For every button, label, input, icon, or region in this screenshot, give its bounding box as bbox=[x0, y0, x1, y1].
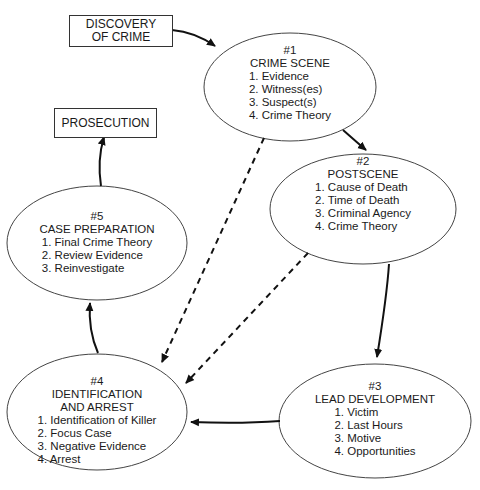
node-5-title: CASE PREPARATION bbox=[39, 223, 154, 236]
arrow-3-to-4 bbox=[191, 421, 280, 423]
node-3-item: 1. Victim bbox=[334, 406, 415, 419]
discovery-line2: OF CRIME bbox=[92, 31, 151, 44]
node-1-crime-scene: #1 CRIME SCENE 1. Evidence 2. Witness(es… bbox=[220, 44, 360, 122]
node-1-item: 2. Witness(es) bbox=[249, 83, 331, 96]
node-4-number: #4 bbox=[91, 375, 104, 388]
node-2-items: 1. Cause of Death 2. Time of Death 3. Cr… bbox=[315, 181, 411, 233]
arrow-5-to-prosecution bbox=[100, 137, 104, 186]
node-5-item: 1. Final Crime Theory bbox=[42, 236, 152, 249]
node-3-item: 4. Opportunities bbox=[334, 445, 415, 458]
node-4-item: 4. Arrest bbox=[38, 453, 157, 466]
node-5-case-preparation: #5 CASE PREPARATION 1. Final Crime Theor… bbox=[27, 210, 167, 275]
node-2-item: 4. Crime Theory bbox=[315, 220, 411, 233]
node-1-item: 1. Evidence bbox=[249, 70, 331, 83]
node-4-item: 1. Identification of Killer bbox=[38, 414, 157, 427]
node-2-title: POSTSCENE bbox=[328, 168, 399, 181]
node-4-title-line1: IDENTIFICATION bbox=[52, 388, 143, 401]
node-3-item: 3. Motive bbox=[334, 432, 415, 445]
node-2-number: #2 bbox=[357, 155, 370, 168]
arrow-2-to-3 bbox=[377, 264, 389, 357]
node-1-number: #1 bbox=[284, 44, 297, 57]
node-1-item: 3. Suspect(s) bbox=[249, 96, 331, 109]
node-4-identification-and-arrest: #4 IDENTIFICATION AND ARREST 1. Identifi… bbox=[22, 375, 172, 466]
node-5-number: #5 bbox=[91, 210, 104, 223]
node-2-postscene: #2 POSTSCENE 1. Cause of Death 2. Time o… bbox=[293, 155, 433, 233]
node-4-item: 3. Negative Evidence bbox=[38, 440, 157, 453]
node-5-item: 3. Reinvestigate bbox=[42, 262, 152, 275]
node-3-items: 1. Victim 2. Last Hours 3. Motive 4. Opp… bbox=[334, 406, 415, 458]
dashed-arrow-1-to-4 bbox=[162, 138, 264, 362]
node-3-number: #3 bbox=[369, 380, 382, 393]
node-4-items: 1. Identification of Killer 2. Focus Cas… bbox=[38, 414, 157, 466]
node-1-title: CRIME SCENE bbox=[250, 57, 330, 70]
arrow-discovery-to-1 bbox=[172, 30, 215, 46]
node-3-lead-development: #3 LEAD DEVELOPMENT 1. Victim 2. Last Ho… bbox=[305, 380, 445, 458]
node-1-items: 1. Evidence 2. Witness(es) 3. Suspect(s)… bbox=[249, 70, 331, 122]
node-4-title-line2: AND ARREST bbox=[60, 401, 134, 414]
node-3-item: 2. Last Hours bbox=[334, 419, 415, 432]
node-4-item: 2. Focus Case bbox=[38, 427, 157, 440]
node-5-items: 1. Final Crime Theory 2. Review Evidence… bbox=[42, 236, 152, 275]
prosecution-box: PROSECUTION bbox=[54, 108, 157, 138]
node-2-item: 1. Cause of Death bbox=[315, 181, 411, 194]
arrow-1-to-2 bbox=[343, 130, 366, 150]
node-2-item: 2. Time of Death bbox=[315, 194, 411, 207]
prosecution-label: PROSECUTION bbox=[61, 117, 149, 130]
node-5-item: 2. Review Evidence bbox=[42, 249, 152, 262]
dashed-arrow-2-to-4 bbox=[186, 253, 308, 383]
node-2-item: 3. Criminal Agency bbox=[315, 207, 411, 220]
node-3-title: LEAD DEVELOPMENT bbox=[315, 393, 435, 406]
arrow-4-to-5 bbox=[90, 303, 98, 353]
node-1-item: 4. Crime Theory bbox=[249, 109, 331, 122]
discovery-of-crime-box: DISCOVERY OF CRIME bbox=[69, 15, 173, 47]
